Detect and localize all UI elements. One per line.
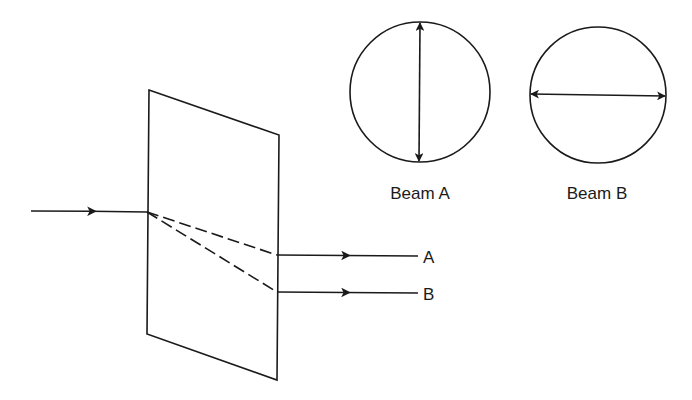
beam-b-label: B <box>423 285 434 304</box>
output-beam-b <box>277 292 418 293</box>
beam-a-caption: Beam A <box>390 184 450 203</box>
internal-path-b <box>147 212 277 292</box>
polarization-inset-a <box>350 22 490 162</box>
incident-beam <box>31 211 147 212</box>
output-beam-a <box>277 255 418 256</box>
diagram-canvas: A B Beam A Beam B <box>0 0 692 400</box>
crystal-plate <box>147 90 279 380</box>
vertical-polarization-arrow-icon <box>419 23 420 161</box>
internal-path-a <box>147 212 277 255</box>
beam-a-label: A <box>423 248 435 267</box>
polarization-inset-b <box>530 27 666 163</box>
beam-b-caption: Beam B <box>567 184 627 203</box>
horizontal-polarization-arrow-icon <box>531 94 665 96</box>
